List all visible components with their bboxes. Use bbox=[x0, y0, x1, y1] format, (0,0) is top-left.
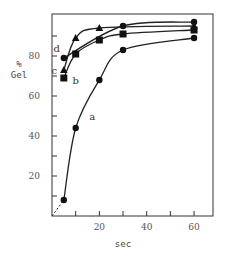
series-line-b bbox=[64, 30, 194, 78]
series-label-a: a bbox=[89, 111, 95, 122]
data-point-a bbox=[191, 35, 197, 41]
plot-frame bbox=[52, 14, 213, 216]
x-tick-label: 60 bbox=[188, 222, 200, 232]
y-tick-label: 80 bbox=[29, 51, 41, 61]
y-tick-label: 40 bbox=[29, 131, 41, 141]
y-tick-label: 20 bbox=[29, 171, 41, 181]
y-axis-title-gel: Gel bbox=[11, 70, 27, 80]
x-axis-title: sec bbox=[115, 239, 131, 249]
series-label-b: b bbox=[72, 75, 78, 86]
x-tick-label: 40 bbox=[141, 222, 153, 232]
series-label-d: d bbox=[54, 43, 61, 54]
data-point-b bbox=[60, 75, 67, 82]
series-line-a bbox=[64, 38, 194, 200]
series-label-c: c bbox=[52, 65, 58, 76]
data-point-d bbox=[120, 23, 126, 29]
data-point-b bbox=[72, 51, 79, 58]
data-point-b bbox=[96, 37, 103, 44]
data-point-a bbox=[96, 77, 102, 83]
labels: 20406020406080abcd bbox=[29, 43, 201, 232]
data-point-a bbox=[72, 125, 78, 131]
data-point-d bbox=[191, 19, 197, 25]
markers bbox=[60, 19, 198, 203]
y-axis-title-percent: % bbox=[16, 59, 22, 69]
x-tick-label: 20 bbox=[94, 222, 106, 232]
y-tick-label: 60 bbox=[29, 91, 41, 101]
chart: 20406020406080abcd sec % Gel bbox=[0, 0, 225, 257]
data-point-a bbox=[120, 47, 126, 53]
data-point-a bbox=[61, 197, 67, 203]
data-point-d bbox=[61, 55, 67, 61]
data-point-c bbox=[60, 66, 68, 73]
data-point-b bbox=[120, 31, 127, 38]
